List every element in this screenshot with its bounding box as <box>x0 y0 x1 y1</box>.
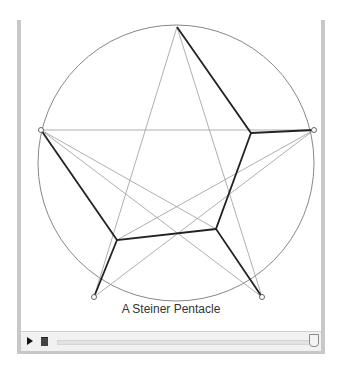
steiner-path <box>41 27 314 297</box>
vertex-bottom-left[interactable] <box>92 295 97 300</box>
pentagram-lines <box>41 27 314 297</box>
animation-controls <box>21 331 321 351</box>
vertex-right[interactable] <box>312 128 317 133</box>
vertex-points[interactable] <box>39 128 317 300</box>
steiner-pentacle-diagram <box>21 20 321 332</box>
animation-slider-track[interactable] <box>57 340 313 345</box>
applet-frame: A Steiner Pentacle <box>17 20 325 354</box>
play-icon[interactable] <box>27 337 33 345</box>
circumscribed-circle <box>38 25 314 301</box>
vertex-left[interactable] <box>39 128 44 133</box>
folder-icon[interactable] <box>41 337 48 346</box>
animation-slider-thumb[interactable] <box>309 334 319 347</box>
diagram-caption: A Steiner Pentacle <box>21 302 321 316</box>
vertex-bottom-right[interactable] <box>260 295 265 300</box>
